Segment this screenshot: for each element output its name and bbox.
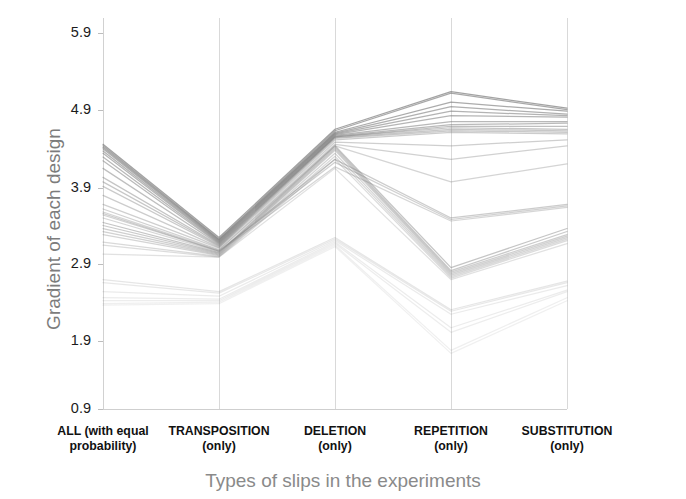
y-tick-label-5-9: 5.9 (45, 24, 91, 40)
x-tick-label-line: (only) (492, 439, 642, 454)
y-tick-label-2-9: 2.9 (45, 255, 91, 271)
x-tick-label-line: SUBSTITUTION (492, 424, 642, 439)
x-axis-label: Types of slips in the experiments (0, 470, 686, 492)
x-tick-label-5: SUBSTITUTION(only) (492, 424, 642, 454)
y-tick-label-3-9: 3.9 (45, 179, 91, 195)
y-tick-label-4-9: 4.9 (45, 101, 91, 117)
y-tick-label-0-9: 0.9 (45, 400, 91, 416)
parallel-coordinates-figure: Gradient of each design Types of slips i… (0, 0, 686, 499)
y-tick-label-1-9: 1.9 (45, 332, 91, 348)
